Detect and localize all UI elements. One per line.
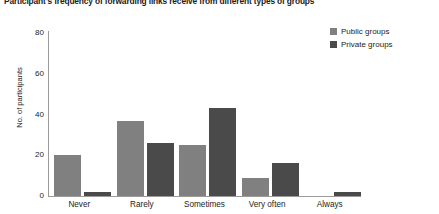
y-axis-tick-label: 60 [4,70,44,78]
y-axis-tick-label: 40 [4,111,44,119]
y-axis-tick-label: 0 [4,192,44,200]
x-axis-line [48,196,361,197]
bar-group [111,33,174,196]
bar[interactable] [334,192,361,196]
bar[interactable] [54,155,81,196]
bar[interactable] [179,145,206,196]
bar-group [173,33,236,196]
bar-group [236,33,299,196]
x-axis-tick-label: Sometimes [170,199,240,210]
bar[interactable] [242,178,269,196]
bar-group [298,33,361,196]
y-axis-tick-labels: 020406080 [0,0,44,214]
bar[interactable] [84,192,111,196]
chart-screenshot: Participant's frequency of forwarding li… [0,0,439,214]
y-axis-tick-label: 80 [4,29,44,37]
y-axis-tick-label: 20 [4,151,44,159]
x-axis-tick-label: Always [295,199,365,210]
bar[interactable] [209,108,236,196]
chart-title: Participant's frequency of forwarding li… [4,0,436,8]
x-axis-tick-label: Very often [232,199,302,210]
x-axis-tick-labels: NeverRarelySometimesVery oftenAlways [48,199,361,213]
x-axis-tick-label: Rarely [107,199,177,210]
bar[interactable] [117,121,144,196]
bar-group [48,33,111,196]
x-axis-tick-label: Never [44,199,114,210]
bar[interactable] [147,143,174,196]
bar-series-container [48,33,361,196]
bar[interactable] [272,163,299,196]
